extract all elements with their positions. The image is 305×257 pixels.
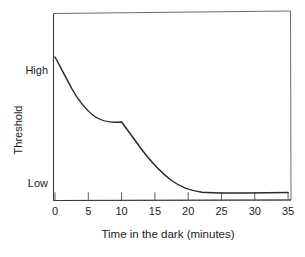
threshold-curve [55,57,288,193]
x-axis-line [54,200,292,201]
y-tick-label-low: Low [28,177,48,189]
chart-figure: High Low Threshold 0 5 10 15 20 25 30 35… [0,0,305,257]
x-tick-label-35: 35 [282,205,294,217]
x-tick-label-30: 30 [249,205,261,217]
x-tick-label-15: 15 [149,205,161,217]
y-axis-title: Threshold [12,106,24,155]
plot-frame [54,11,292,201]
x-tick-label-0: 0 [52,205,58,217]
y-tick-label-high: High [25,64,48,76]
dark-adaptation-chart: High Low Threshold 0 5 10 15 20 25 30 35… [0,0,305,257]
x-tick-label-5: 5 [85,205,91,217]
x-tick-label-25: 25 [215,205,227,217]
x-tick-label-10: 10 [115,205,127,217]
x-axis-title: Time in the dark (minutes) [101,228,234,240]
x-axis-tick-labels: 0 5 10 15 20 25 30 35 [52,205,294,217]
x-tick-label-20: 20 [182,205,194,217]
